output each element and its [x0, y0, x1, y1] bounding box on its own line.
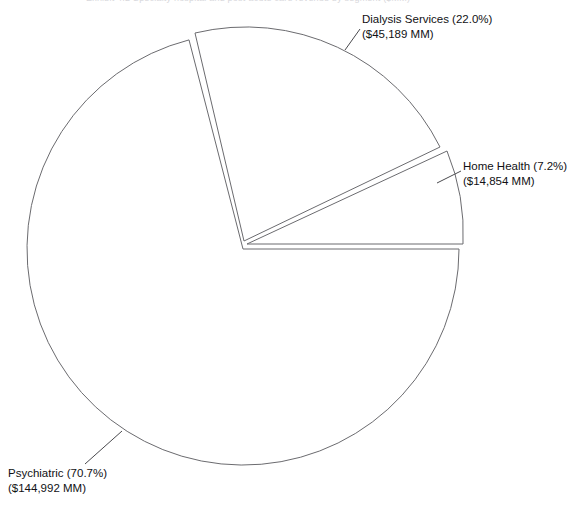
- pie-label-dialysis-services: Dialysis Services (22.0%) ($45,189 MM): [362, 12, 492, 41]
- leader-line-psychiatric: [85, 431, 122, 464]
- pie-label-psychiatric-value: ($144,992 MM): [8, 481, 107, 496]
- pie-label-psychiatric-name: Psychiatric (70.7%): [8, 466, 107, 481]
- pie-chart-canvas: [0, 0, 587, 509]
- pie-label-psychiatric: Psychiatric (70.7%) ($144,992 MM): [8, 466, 107, 495]
- leader-line-dialysis-services: [345, 29, 360, 50]
- pie-label-home-health: Home Health (7.2%) ($14,854 MM): [463, 159, 567, 188]
- pie-label-home-health-name: Home Health (7.2%): [463, 159, 567, 174]
- pie-chart-figure: Exhibit 4.2 Specialty hospital and post-…: [0, 0, 587, 509]
- pie-label-home-health-value: ($14,854 MM): [463, 174, 567, 189]
- pie-label-dialysis-services-value: ($45,189 MM): [362, 27, 492, 42]
- pie-label-dialysis-services-name: Dialysis Services (22.0%): [362, 12, 492, 27]
